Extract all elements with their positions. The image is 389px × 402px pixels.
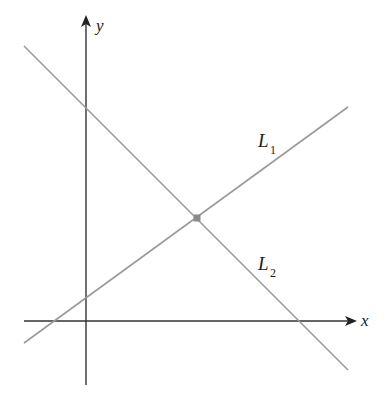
coordinate-diagram: y x L 1 L 2: [0, 0, 389, 402]
x-axis-label: x: [360, 311, 369, 330]
y-axis-label: y: [94, 16, 104, 35]
line-L1: [24, 107, 348, 343]
label-L1: L 1: [257, 130, 276, 157]
svg-text:2: 2: [270, 266, 276, 280]
svg-text:1: 1: [270, 143, 276, 157]
svg-text:L: L: [257, 253, 269, 274]
svg-text:L: L: [257, 130, 269, 151]
label-L2: L 2: [257, 253, 276, 280]
intersection-point: [194, 215, 201, 222]
